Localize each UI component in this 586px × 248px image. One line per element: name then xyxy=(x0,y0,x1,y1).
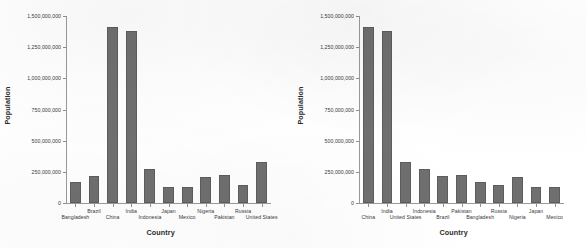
left-chart-y-tick-label: 0 xyxy=(15,200,61,206)
x-tick-label-united-states: United States xyxy=(233,214,291,220)
bar-nigeria xyxy=(200,177,211,203)
left-chart-x-tick xyxy=(150,204,151,207)
right-chart-y-tick-label: 1,000,000,000 xyxy=(308,75,354,81)
bar-india xyxy=(126,31,137,203)
left-chart-y-tick xyxy=(63,203,66,204)
bar-china xyxy=(363,27,374,203)
left-chart-y-axis-title: Population xyxy=(0,0,14,210)
right-chart-y-axis-line xyxy=(359,16,360,203)
left-chart-y-tick-label: 500,000,000 xyxy=(15,138,61,144)
right-chart-x-tick xyxy=(424,204,425,207)
right-chart-y-tick xyxy=(356,203,359,204)
bar-united-states xyxy=(256,162,267,203)
right-chart-y-tick-label: 1,500,000,000 xyxy=(308,13,354,19)
right-chart-y-tick xyxy=(356,16,359,17)
bar-japan xyxy=(163,187,174,203)
right-chart-y-tick-label: 250,000,000 xyxy=(308,169,354,175)
bar-pakistan xyxy=(456,175,467,203)
left-chart-x-tick xyxy=(75,204,76,207)
left-chart-x-tick xyxy=(206,204,207,207)
left-chart-x-axis-title: Country xyxy=(147,228,175,237)
right-chart-y-tick xyxy=(356,47,359,48)
left-chart-x-tick xyxy=(113,204,114,207)
right-chart-x-tick xyxy=(517,204,518,207)
figure-container: Population 0250,000,000500,000,000750,00… xyxy=(0,0,586,248)
left-chart-x-tick xyxy=(243,204,244,207)
left-chart-y-tick xyxy=(63,110,66,111)
bar-russia xyxy=(493,185,504,203)
left-chart-x-tick xyxy=(131,204,132,207)
left-chart-x-tick xyxy=(94,204,95,207)
right-chart-plot-area: 0250,000,000500,000,000750,000,0001,000,… xyxy=(359,16,564,203)
right-chart-x-tick xyxy=(555,204,556,207)
bar-mexico xyxy=(549,187,560,203)
bar-indonesia xyxy=(419,169,430,203)
right-chart-y-tick xyxy=(356,110,359,111)
right-chart-panel: Population 0250,000,000500,000,000750,00… xyxy=(293,0,586,248)
left-chart-x-tick xyxy=(187,204,188,207)
bar-india xyxy=(382,31,393,203)
bar-brazil xyxy=(89,176,100,203)
left-chart-y-tick-label: 250,000,000 xyxy=(15,169,61,175)
left-chart-y-tick xyxy=(63,78,66,79)
right-chart-x-tick xyxy=(406,204,407,207)
right-chart-y-axis-title: Population xyxy=(293,0,307,210)
right-chart-y-tick-label: 750,000,000 xyxy=(308,107,354,113)
left-chart-panel: Population 0250,000,000500,000,000750,00… xyxy=(0,0,293,248)
right-chart-y-axis-title-text: Population xyxy=(296,86,305,124)
bar-pakistan xyxy=(219,175,230,203)
bar-mexico xyxy=(182,187,193,203)
right-chart-x-tick xyxy=(368,204,369,207)
left-chart-x-tick xyxy=(262,204,263,207)
left-chart-y-tick-label: 1,250,000,000 xyxy=(15,44,61,50)
left-chart-y-tick xyxy=(63,141,66,142)
left-chart-x-tick xyxy=(169,204,170,207)
bar-indonesia xyxy=(144,169,155,203)
right-chart-y-tick-label: 500,000,000 xyxy=(308,138,354,144)
right-chart-y-tick xyxy=(356,172,359,173)
left-chart-y-tick-label: 1,000,000,000 xyxy=(15,75,61,81)
left-chart-y-tick-label: 1,500,000,000 xyxy=(15,13,61,19)
right-chart-x-axis-title: Country xyxy=(440,228,468,237)
right-chart-x-tick xyxy=(480,204,481,207)
bar-brazil xyxy=(437,176,448,203)
left-chart-y-axis-line xyxy=(66,16,67,203)
bar-russia xyxy=(238,185,249,203)
left-chart-y-tick xyxy=(63,47,66,48)
left-chart-x-tick xyxy=(224,204,225,207)
bar-japan xyxy=(531,187,542,203)
left-chart-y-axis-title-text: Population xyxy=(3,86,12,124)
left-chart-y-tick xyxy=(63,172,66,173)
right-chart-y-tick xyxy=(356,78,359,79)
right-chart-x-tick xyxy=(499,204,500,207)
bar-nigeria xyxy=(512,177,523,203)
bar-bangladesh xyxy=(70,182,81,203)
right-chart-y-tick xyxy=(356,141,359,142)
bar-china xyxy=(107,27,118,203)
left-chart-y-tick xyxy=(63,16,66,17)
left-chart-y-tick-label: 750,000,000 xyxy=(15,107,61,113)
right-chart-x-tick xyxy=(462,204,463,207)
x-tick-label-mexico: Mexico xyxy=(526,214,584,220)
right-chart-y-tick-label: 0 xyxy=(308,200,354,206)
bar-united-states xyxy=(400,162,411,203)
right-chart-y-tick-label: 1,250,000,000 xyxy=(308,44,354,50)
right-chart-x-tick xyxy=(387,204,388,207)
left-chart-plot-area: 0250,000,000500,000,000750,000,0001,000,… xyxy=(66,16,271,203)
bar-bangladesh xyxy=(475,182,486,203)
right-chart-x-tick xyxy=(536,204,537,207)
right-chart-x-tick xyxy=(443,204,444,207)
